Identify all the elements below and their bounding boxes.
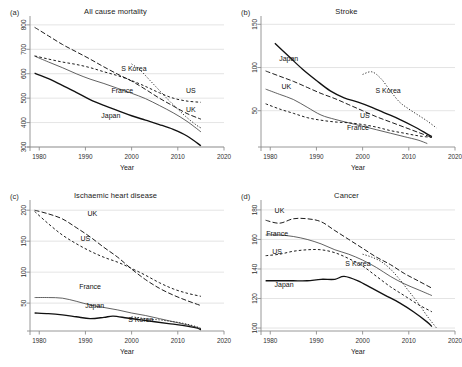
x-tick-label: 1990 <box>309 336 324 343</box>
series-label-us: US <box>186 87 196 94</box>
y-tick-label: 100 <box>251 62 258 73</box>
series-line-us <box>35 211 201 296</box>
series-line-us <box>35 56 201 102</box>
x-tick-label: 2010 <box>402 336 417 343</box>
y-tick-label: 500 <box>20 92 27 103</box>
x-tick-label: 2020 <box>448 153 462 160</box>
x-tick-label: 2010 <box>171 153 186 160</box>
chart-svg: 1980199020002010202050100150YearJapanUKS… <box>231 0 462 184</box>
series-label-s-korea: S Korea <box>128 315 153 322</box>
x-tick-label: 2010 <box>402 153 417 160</box>
series-label-uk: UK <box>275 206 285 213</box>
series-line-s-korea <box>363 254 437 328</box>
chart-svg: 1980199020002010202050100150200YearUKUSF… <box>0 184 231 367</box>
series-label-japan: Japan <box>275 280 294 288</box>
y-tick-label: 600 <box>20 68 27 79</box>
y-tick-label: 180 <box>251 204 258 215</box>
chart-svg: 19801990200020102020300400500600700800Ye… <box>0 0 231 184</box>
series-line-japan <box>275 43 432 136</box>
series-label-uk: UK <box>87 210 97 217</box>
series-line-japan <box>35 313 201 330</box>
x-tick-label: 2000 <box>125 336 140 343</box>
series-label-s-korea: S Korea <box>345 260 370 267</box>
y-tick-label: 50 <box>251 107 258 115</box>
series-label-uk: UK <box>282 83 292 90</box>
y-tick-label: 140 <box>251 263 258 274</box>
x-axis-label: Year <box>351 348 366 355</box>
plot-area: 19801990200020102020300400500600700800Ye… <box>0 0 231 184</box>
y-tick-label: 200 <box>20 204 27 215</box>
y-tick-label: 50 <box>20 299 27 307</box>
panel-all-cause-mortality: (a) All cause mortality 1980199020002010… <box>0 0 231 184</box>
figure-panel-grid: (a) All cause mortality 1980199020002010… <box>0 0 462 367</box>
x-axis-label: Year <box>351 164 366 171</box>
series-label-japan: Japan <box>279 55 298 63</box>
series-label-uk: UK <box>186 106 196 113</box>
y-tick-label: 300 <box>20 141 27 152</box>
panel-ischaemic-heart-disease: (c) Ischaemic heart disease 198019902000… <box>0 184 231 367</box>
y-tick-label: 700 <box>20 44 27 55</box>
plot-area: 1980199020002010202050100150200YearUKUSF… <box>0 184 231 367</box>
x-tick-label: 1990 <box>309 153 324 160</box>
x-tick-label: 1980 <box>32 153 47 160</box>
y-tick-label: 150 <box>20 235 27 246</box>
x-tick-label: 2000 <box>125 153 140 160</box>
series-label-us: US <box>360 112 370 119</box>
series-label-us: US <box>272 248 282 255</box>
series-line-france <box>266 89 428 143</box>
chart-svg: 19801990200020102020100120140160180YearU… <box>231 184 462 367</box>
x-tick-label: 1980 <box>32 336 47 343</box>
y-tick-label: 160 <box>251 233 258 244</box>
series-line-uk <box>35 27 201 119</box>
x-tick-label: 1990 <box>78 336 93 343</box>
panel-stroke: (b) Stroke 1980199020002010202050100150Y… <box>231 0 462 184</box>
x-tick-label: 2010 <box>171 336 186 343</box>
series-label-france: France <box>111 87 133 94</box>
x-tick-label: 1980 <box>263 153 278 160</box>
series-label-france: France <box>266 230 288 237</box>
x-tick-label: 1980 <box>263 336 278 343</box>
x-tick-label: 2020 <box>217 336 232 343</box>
series-label-japan: Japan <box>101 112 120 120</box>
y-tick-label: 100 <box>251 322 258 333</box>
panel-cancer: (d) Cancer 19801990200020102020100120140… <box>231 184 462 367</box>
plot-area: 19801990200020102020100120140160180YearU… <box>231 184 462 367</box>
x-axis-label: Year <box>120 164 135 171</box>
x-tick-label: 2000 <box>356 336 371 343</box>
series-label-france: France <box>79 283 101 290</box>
series-label-s-korea: S Korea <box>375 87 400 94</box>
y-tick-label: 150 <box>251 19 258 30</box>
series-label-s-korea: S Korea <box>121 65 146 72</box>
x-tick-label: 2000 <box>356 153 371 160</box>
y-tick-label: 120 <box>251 292 258 303</box>
series-label-japan: Japan <box>85 302 104 310</box>
series-line-us <box>266 104 432 138</box>
x-axis-label: Year <box>120 348 135 355</box>
y-tick-label: 800 <box>20 19 27 30</box>
x-tick-label: 2020 <box>448 336 462 343</box>
y-tick-label: 400 <box>20 117 27 128</box>
series-label-us: US <box>81 235 91 242</box>
x-tick-label: 1990 <box>78 153 93 160</box>
x-tick-label: 2020 <box>217 153 232 160</box>
series-label-france: France <box>347 124 369 131</box>
series-line-uk <box>35 210 201 305</box>
plot-area: 1980199020002010202050100150YearJapanUKS… <box>231 0 462 184</box>
y-tick-label: 100 <box>20 266 27 277</box>
series-line-japan <box>35 73 201 146</box>
